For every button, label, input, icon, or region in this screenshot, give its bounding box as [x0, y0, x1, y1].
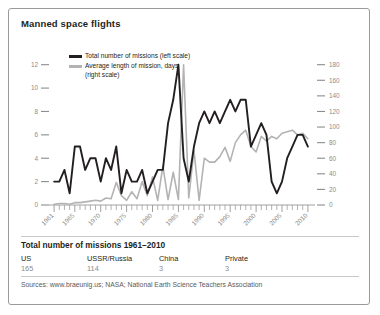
x-axis-tick-label: 1985 [164, 211, 179, 226]
right-axis-tick-label: 180 [329, 61, 340, 68]
summary-col-ussr-russia: USSR/Russia 114 [87, 254, 159, 273]
sources-text: Sources: www.braeunig.us; NASA; National… [21, 281, 262, 288]
summary-col-private: Private 3 [225, 254, 291, 273]
legend-item-avg-length: Average length of mission, days (right s… [69, 62, 190, 79]
right-axis-tick-label: 20 [329, 186, 337, 193]
summary-value-private: 3 [225, 264, 291, 273]
x-axis-tick-label: 1965 [61, 211, 76, 226]
right-axis-tick-label: 60 [329, 155, 337, 162]
summary-col-china: China 3 [159, 254, 225, 273]
right-axis-tick-label: 40 [329, 170, 337, 177]
summary-label-ussr-russia: USSR/Russia [87, 254, 159, 263]
right-axis-tick-label: 120 [329, 108, 340, 115]
legend-swatch-icon-gray [69, 65, 82, 67]
divider-bottom [21, 276, 359, 277]
left-axis-tick-label: 10 [31, 84, 39, 91]
chart-card: Manned space flights 0246810120204060801… [8, 8, 370, 305]
right-axis-tick-label: 160 [329, 77, 340, 84]
summary-table: US 165 USSR/Russia 114 China 3 Private 3 [21, 254, 361, 273]
right-axis-tick-label: 0 [329, 201, 333, 208]
left-axis-tick-label: 2 [34, 178, 38, 185]
chart-legend: Total number of missions (left scale) Av… [69, 52, 190, 81]
chart-footer: Total number of missions 1961–2010 US 16… [21, 240, 361, 273]
summary-col-us: US 165 [21, 254, 87, 273]
left-axis-tick-label: 12 [31, 61, 39, 68]
x-axis-tick-label: 2005 [268, 211, 283, 226]
legend-label-avg-length: Average length of mission, days (right s… [85, 62, 178, 79]
chart-plot-area: 0246810120204060801001201401601801961196… [21, 39, 359, 235]
x-axis-tick-label: 1970 [86, 211, 101, 226]
legend-label-total-missions: Total number of missions (left scale) [85, 52, 190, 60]
summary-label-private: Private [225, 254, 291, 263]
x-axis-tick-label: 1995 [216, 211, 231, 226]
summary-value-us: 165 [21, 264, 87, 273]
summary-value-ussr-russia: 114 [87, 264, 159, 273]
right-axis-tick-label: 100 [329, 123, 340, 130]
page-title: Manned space flights [21, 18, 121, 29]
summary-value-china: 3 [159, 264, 225, 273]
series-line-avg-length [54, 65, 308, 205]
x-axis-tick-label: 1975 [112, 211, 127, 226]
right-axis-tick-label: 80 [329, 139, 337, 146]
left-axis-tick-label: 4 [34, 155, 38, 162]
left-axis-tick-label: 0 [34, 201, 38, 208]
left-axis-tick-label: 8 [34, 108, 38, 115]
x-axis-tick-label: 2010 [294, 211, 309, 226]
left-axis-tick-label: 6 [34, 131, 38, 138]
summary-label-us: US [21, 254, 87, 263]
legend-swatch-icon-black [69, 55, 82, 58]
summary-label-china: China [159, 254, 225, 263]
legend-item-total-missions: Total number of missions (left scale) [69, 52, 190, 60]
summary-title: Total number of missions 1961–2010 [21, 240, 361, 250]
x-axis-tick-label: 1980 [138, 211, 153, 226]
x-axis-tick-label: 1990 [190, 211, 205, 226]
x-axis-tick-label: 1961 [40, 211, 55, 226]
x-axis-tick-label: 2000 [242, 211, 257, 226]
right-axis-tick-label: 140 [329, 92, 340, 99]
divider-top [21, 236, 359, 237]
